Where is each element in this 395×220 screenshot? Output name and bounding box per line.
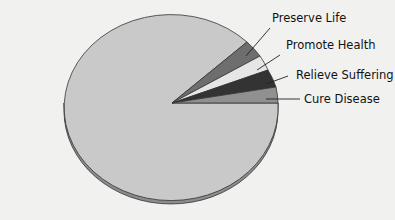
label-promote-health: Promote Health	[286, 38, 375, 52]
label-relieve-suffering: Relieve Suffering	[296, 68, 394, 82]
label-cure-disease: Cure Disease	[304, 92, 380, 106]
label-preserve-life: Preserve Life	[272, 11, 346, 25]
pie-chart	[0, 0, 395, 220]
